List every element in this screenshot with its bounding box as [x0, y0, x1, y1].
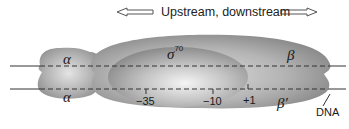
- plus1-label: +1: [243, 95, 256, 106]
- alpha-top-label: α: [63, 52, 71, 67]
- minus35-label: −35: [136, 96, 155, 107]
- minus10-label: −10: [203, 96, 222, 107]
- dna-label: DNA: [316, 107, 339, 118]
- beta-prime-label: β′: [277, 96, 288, 111]
- beta-label: β: [287, 48, 294, 63]
- arrow-left-icon: [117, 8, 153, 16]
- sigma-label: σ70: [167, 46, 183, 62]
- alpha-bottom-label: α: [63, 90, 71, 105]
- sigma-superscript: 70: [174, 44, 183, 53]
- upstream-downstream-label: Upstream, downstream: [161, 6, 290, 19]
- dna-pointer-line: [323, 94, 330, 106]
- rna-polymerase-diagram: [0, 0, 349, 129]
